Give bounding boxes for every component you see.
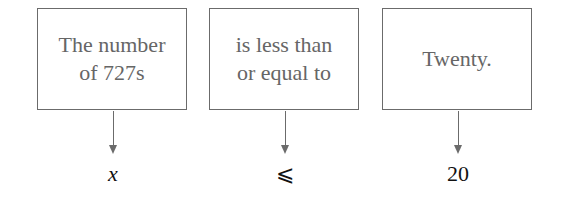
arrow-shaft — [285, 111, 286, 147]
phrase-line: Twenty. — [422, 45, 492, 73]
phrase-line: is less than — [236, 31, 333, 59]
symbol-less-than-or-equal: ⩽ — [255, 160, 315, 188]
arrow-down-icon — [454, 145, 462, 154]
symbol-variable-x: x — [83, 160, 143, 188]
phrase-line: The number — [59, 31, 166, 59]
symbol-number-20: 20 — [428, 160, 488, 188]
arrow-down-icon — [281, 145, 289, 154]
phrase-line: or equal to — [236, 59, 333, 87]
phrase-box-less-than-or-equal: is less than or equal to — [209, 8, 359, 110]
phrase-box-the-number-of-727s: The number of 727s — [37, 8, 187, 110]
phrase-line: of 727s — [59, 59, 166, 87]
arrow-down-icon — [109, 145, 117, 154]
phrase-box-twenty: Twenty. — [382, 8, 532, 110]
arrow-shaft — [458, 111, 459, 147]
arrow-shaft — [113, 111, 114, 147]
